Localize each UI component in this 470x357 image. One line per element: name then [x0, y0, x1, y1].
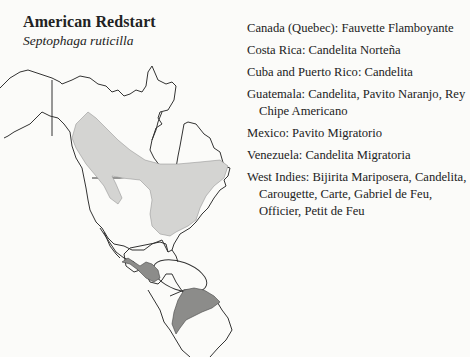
local-name-entry: Cuba and Puerto Rico: Candelita [247, 64, 469, 81]
local-name-entry: Canada (Quebec): Fauvette Flamboyante [247, 20, 469, 37]
local-names-list: Canada (Quebec): Fauvette Flamboyante Co… [247, 20, 469, 225]
local-name-entry: Costa Rica: Candelita Norteña [247, 42, 469, 59]
local-name-entry: Guatemala: Candelita, Pavito Naranjo, Re… [247, 86, 469, 120]
breeding-range-area [72, 112, 228, 236]
hudson-bay [152, 112, 162, 140]
local-name-entry: Mexico: Pavito Migratorio [247, 125, 469, 142]
local-name-entry: West Indies: Bijirita Mariposera, Candel… [247, 169, 469, 220]
range-map [0, 0, 240, 357]
local-name-entry: Venezuela: Candelita Migratoria [247, 147, 469, 164]
